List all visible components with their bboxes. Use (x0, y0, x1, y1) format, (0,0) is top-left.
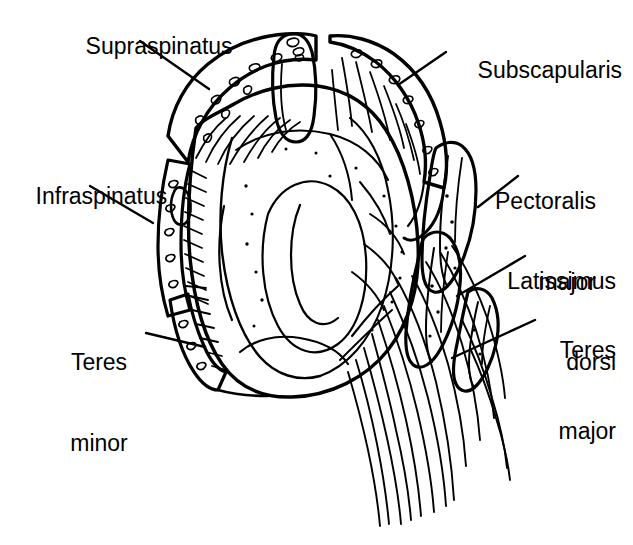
label-supraspinatus-text: Supraspinatus (86, 33, 233, 59)
label-teres-minor-line1: Teres (52, 349, 146, 376)
label-subscapularis: Subscapularis (452, 30, 622, 111)
leader-teres-minor (146, 333, 205, 347)
label-teres-major-line1: Teres (508, 337, 616, 364)
label-infraspinatus: Infraspinatus (10, 156, 167, 237)
label-teres-major-line2: major (508, 418, 616, 445)
anatomy-figure: Supraspinatus Subscapularis Infraspinatu… (0, 0, 633, 545)
label-teres-minor: Teres minor (52, 295, 146, 511)
label-infraspinatus-text: Infraspinatus (36, 183, 168, 209)
label-teres-minor-line2: minor (52, 430, 146, 457)
label-subscapularis-text: Subscapularis (478, 57, 622, 83)
glenoid-inner-contours (219, 181, 366, 364)
label-teres-major: Teres major (508, 283, 616, 499)
label-pectoralis-major-line1: Pectoralis (466, 188, 596, 215)
label-supraspinatus: Supraspinatus (60, 6, 233, 87)
subscapularis-attachment (330, 36, 446, 240)
